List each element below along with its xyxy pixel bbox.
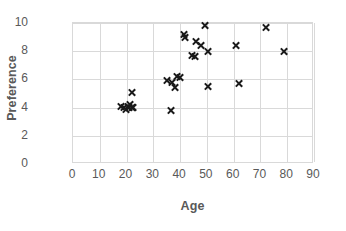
x-tick-label: 70: [246, 168, 272, 180]
gridline-vertical: [153, 23, 154, 162]
data-point-marker: [232, 41, 241, 50]
data-point-marker: [127, 88, 136, 97]
scatter-chart: Preference 0246810 0102030405060708090 A…: [0, 0, 346, 231]
data-point-marker: [204, 47, 213, 56]
gridline-vertical: [207, 23, 208, 162]
data-point-marker: [201, 21, 210, 30]
x-tick-label: 50: [193, 168, 219, 180]
data-point-marker: [170, 83, 179, 92]
x-tick-label: 0: [59, 168, 85, 180]
gridline-horizontal: [73, 136, 312, 137]
gridline-vertical: [260, 23, 261, 162]
gridline-vertical: [100, 23, 101, 162]
plot-area: [72, 22, 313, 163]
x-tick-label: 30: [139, 168, 165, 180]
x-axis-title: Age: [72, 199, 313, 213]
data-point-marker: [235, 79, 244, 88]
y-tick-label: 6: [2, 72, 28, 84]
gridline-horizontal: [73, 23, 312, 24]
y-tick-label: 0: [2, 157, 28, 169]
data-point-marker: [181, 33, 190, 42]
gridline-vertical: [314, 23, 315, 162]
x-tick-label: 60: [220, 168, 246, 180]
data-point-marker: [190, 52, 199, 61]
gridline-vertical: [180, 23, 181, 162]
data-point-marker: [280, 47, 289, 56]
gridline-horizontal: [73, 108, 312, 109]
gridline-vertical: [287, 23, 288, 162]
y-tick-label: 4: [2, 101, 28, 113]
x-tick-label: 40: [166, 168, 192, 180]
y-tick-label: 10: [2, 16, 28, 28]
x-tick-label: 20: [113, 168, 139, 180]
y-tick-label: 2: [2, 129, 28, 141]
x-tick-label: 80: [273, 168, 299, 180]
data-point-marker: [166, 106, 175, 115]
x-tick-label: 90: [300, 168, 326, 180]
gridline-horizontal: [73, 79, 312, 80]
data-point-marker: [204, 82, 213, 91]
y-tick-label: 8: [2, 44, 28, 56]
data-point-marker: [129, 103, 138, 112]
x-tick-label: 10: [86, 168, 112, 180]
data-point-marker: [176, 73, 185, 82]
data-point-marker: [261, 23, 270, 32]
